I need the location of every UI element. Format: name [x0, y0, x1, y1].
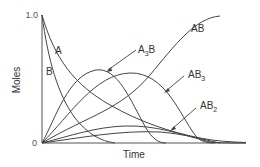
curve-A [42, 15, 246, 143]
label-B: B [46, 66, 53, 77]
pointer-A3B [108, 50, 136, 70]
y-axis-title: Moles [11, 67, 22, 94]
y-tick-zero: 0 [32, 138, 37, 148]
kinetics-chart: 1.0 0 Time Moles A B A3B AB AB3 AB2 [0, 0, 260, 167]
label-AB: AB [191, 23, 205, 34]
label-A: A [55, 45, 62, 56]
label-A3B: A3B [138, 44, 156, 57]
x-axis-title: Time [123, 149, 145, 160]
arrow-A3B-icon [106, 67, 112, 72]
label-AB3: AB3 [188, 69, 205, 82]
pointer-AB2 [172, 108, 196, 129]
pointer-AB3 [166, 76, 184, 91]
y-tick-top: 1.0 [25, 10, 38, 20]
label-AB2: AB2 [200, 100, 217, 113]
